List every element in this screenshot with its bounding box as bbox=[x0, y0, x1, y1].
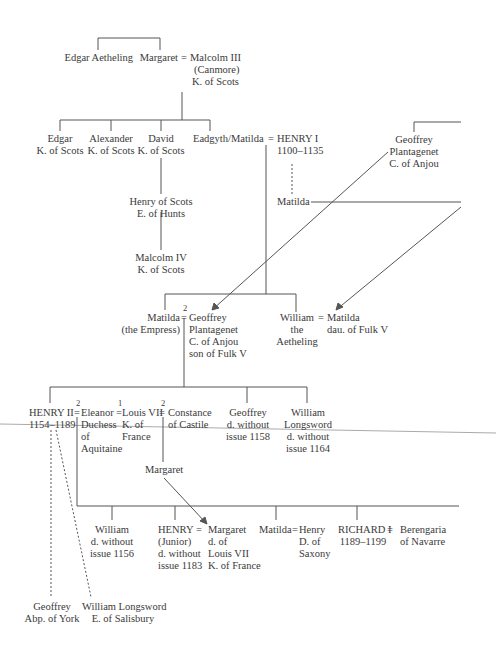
marriage-mark: = bbox=[196, 524, 202, 536]
person-margaret-daughter: Margaret bbox=[145, 464, 183, 476]
person-eadgyth-matilda: Eadgyth/Matilda bbox=[193, 133, 264, 145]
marriage-mark: = bbox=[387, 524, 393, 536]
marriage-mark: = bbox=[268, 133, 274, 145]
marriage-mark: = bbox=[318, 312, 324, 324]
family-tree: Edgar Aetheling Margaret = Malcolm III (… bbox=[0, 0, 496, 653]
person-edgar-king: EdgarK. of Scots bbox=[32, 133, 88, 157]
person-matilda-illegitimate: Matilda bbox=[277, 196, 310, 208]
person-henry-i: HENRY I1100–1135 bbox=[277, 133, 323, 157]
person-david: DavidK. of Scots bbox=[133, 133, 189, 157]
person-matilda-saxony: Matilda bbox=[259, 524, 292, 536]
person-henry-ii: HENRY II1154–1189 bbox=[29, 407, 75, 431]
marriage-mark: = bbox=[181, 312, 187, 324]
person-geoffrey-abp-york: GeoffreyAbp. of York bbox=[22, 601, 82, 625]
person-geoffrey-d-1158: Geoffreyd. withoutissue 1158 bbox=[220, 407, 276, 443]
person-henry-saxony: HenryD. ofSaxony bbox=[299, 524, 331, 560]
person-malcolm-iv: Malcolm IVK. of Scots bbox=[128, 252, 194, 276]
person-constance: Constanceof Castile bbox=[168, 407, 212, 431]
person-margaret-of-france: Margaretd. ofLouis VIIK. of France bbox=[208, 524, 261, 572]
person-margaret: Margaret bbox=[130, 52, 178, 64]
person-matilda-dau-fulk: Matildadau. of Fulk V bbox=[327, 312, 388, 336]
marriage-mark: = bbox=[292, 524, 298, 536]
person-geoffrey-plantagenet-elder: GeoffreyPlantagenetC. of Anjou bbox=[380, 134, 448, 170]
person-geoffrey-plantagenet: GeoffreyPlantagenetC. of Anjouson of Ful… bbox=[189, 312, 247, 360]
person-william-aetheling: WilliamtheAetheling bbox=[272, 312, 322, 348]
person-matilda-empress: Matilda(the Empress) bbox=[110, 312, 180, 336]
person-william-longsword-salisbury: William LongswordE. of Salisbury bbox=[82, 601, 164, 625]
marriage-mark: = bbox=[181, 52, 187, 64]
marriage-mark: = bbox=[159, 407, 165, 419]
person-louis-vii: Louis VIIK. ofFrance bbox=[122, 407, 163, 443]
person-malcolm-iii: Malcolm III (Canmore) K. of Scots bbox=[190, 52, 241, 88]
person-richard-i: RICHARD I1189–1199 bbox=[338, 524, 388, 548]
person-william-longsword-d-1164: WilliamLongswordd. withoutissue 1164 bbox=[278, 407, 338, 455]
person-william-d-1156: Williamd. withoutissue 1156 bbox=[86, 524, 138, 560]
person-alexander: AlexanderK. of Scots bbox=[83, 133, 139, 157]
person-berengaria: Berengariaof Navarre bbox=[400, 524, 446, 548]
person-edgar-aetheling: Edgar Aetheling bbox=[55, 52, 133, 64]
person-henry-of-scots: Henry of ScotsE. of Hunts bbox=[128, 196, 194, 220]
marriage-mark: = bbox=[74, 407, 80, 419]
